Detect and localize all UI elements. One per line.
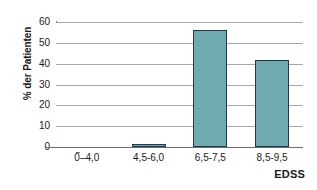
x-tick-label: 8,5-9,5 (241, 152, 303, 164)
y-axis-tick-labels: 0102030405060 (24, 16, 50, 148)
y-tick-label: 60 (24, 17, 50, 27)
x-axis-tick-labels: 0–4,04,5-6,06,5-7,58,5-9,5 (56, 152, 303, 168)
bars-group (56, 22, 303, 147)
x-tick-label: 6,5-7,5 (180, 152, 242, 164)
bar (132, 144, 166, 147)
bar (193, 30, 227, 147)
bar-chart-figure: % der Patienten 0102030405060 0–4,04,5-6… (0, 0, 317, 190)
y-tick-label: 10 (24, 121, 50, 131)
x-axis-line (45, 147, 303, 148)
y-tick-label: 40 (24, 59, 50, 69)
bar (255, 60, 289, 148)
y-tick-label: 50 (24, 38, 50, 48)
y-tick-label: 20 (24, 100, 50, 110)
y-tick-label: 30 (24, 80, 50, 90)
x-tick-label: 0–4,0 (56, 152, 118, 164)
x-tick-label: 4,5-6,0 (118, 152, 180, 164)
plot-area (56, 22, 303, 147)
x-axis-title: EDSS (274, 168, 305, 180)
